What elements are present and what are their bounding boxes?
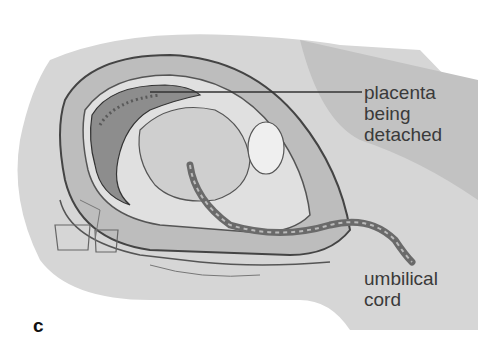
panel-letter: c bbox=[33, 315, 44, 337]
label-line: umbilical bbox=[364, 268, 438, 289]
label-line: being bbox=[364, 103, 442, 124]
illustration-canvas: placenta being detached umbilical cord c bbox=[0, 0, 478, 344]
label-placenta: placenta being detached bbox=[364, 82, 442, 145]
label-umbilical-cord: umbilical cord bbox=[364, 268, 438, 310]
label-line: cord bbox=[364, 289, 438, 310]
label-line: placenta bbox=[364, 82, 442, 103]
label-line: detached bbox=[364, 124, 442, 145]
